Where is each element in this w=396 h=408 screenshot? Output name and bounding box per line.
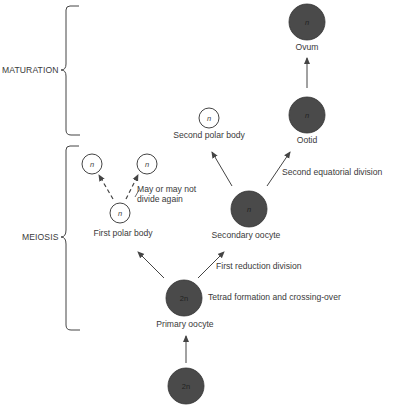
may-divide-line2: divide again [137, 195, 196, 205]
second-polar-body-ploidy: n [207, 114, 211, 123]
primary-oocyte-label: Primary oocyte [156, 320, 213, 330]
ootid-label: Ootid [297, 136, 318, 146]
maturation-phase-label: MATURATION [2, 65, 59, 75]
maturation-brace [61, 6, 80, 135]
ootid-ploidy: n [305, 111, 309, 120]
secondary-oocyte-label: Secondary oocyte [212, 231, 281, 241]
primary-oocyte-ploidy: 2n [180, 294, 188, 303]
first-division-annotation: First reduction division [216, 262, 302, 272]
polar-daughter-right-ploidy: n [145, 160, 149, 169]
oogonium-ploidy: 2n [182, 382, 190, 391]
meiosis-brace [61, 146, 80, 330]
first-polar-body-label: First polar body [93, 229, 152, 239]
oogenesis-diagram: n n n 2n 2n n n n n [0, 0, 396, 408]
secondary-oocyte-ploidy: n [247, 205, 251, 214]
first-polar-body-ploidy: n [118, 209, 122, 218]
dashed-arrow-left [99, 175, 113, 199]
second-division-annotation: Second equatorial division [282, 168, 382, 178]
ovum-ploidy: n [305, 18, 309, 27]
tetrad-annotation: Tetrad formation and crossing-over [208, 293, 341, 303]
meiosis-phase-label: MEIOSIS [22, 232, 59, 242]
second-polar-body-label: Second polar body [173, 131, 245, 141]
may-divide-annotation: May or may not divide again [137, 185, 196, 205]
arrow-primary-to-first-polar [138, 252, 164, 278]
polar-daughter-left-ploidy: n [90, 160, 94, 169]
ovum-label: Ovum [296, 43, 319, 53]
arrow-secondary-to-second-polar [212, 152, 232, 186]
